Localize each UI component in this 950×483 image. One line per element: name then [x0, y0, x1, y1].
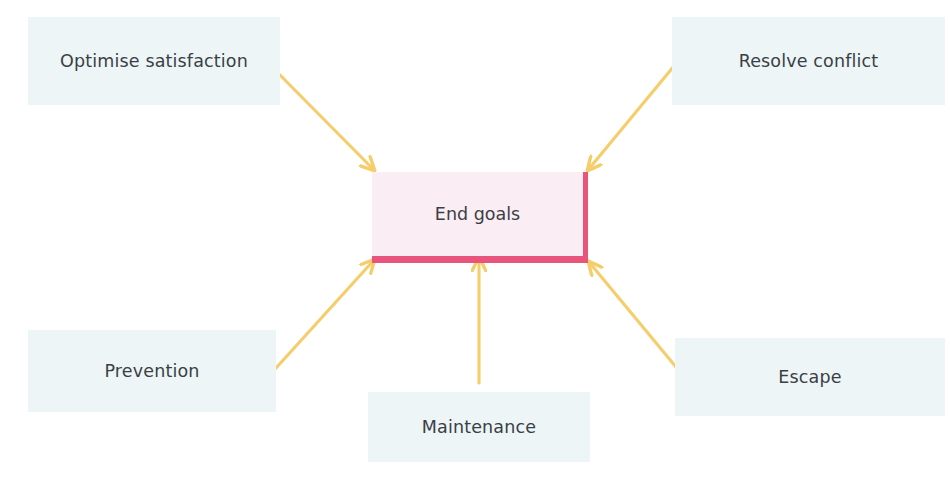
diagram-canvas: Optimise satisfaction Resolve conflict P…: [0, 0, 950, 483]
center-node-label: End goals: [435, 204, 520, 224]
node-label: Maintenance: [418, 417, 540, 437]
node-label: Prevention: [100, 361, 203, 381]
arrow-optimise-satisfaction: [277, 72, 374, 170]
center-node-end-goals[interactable]: End goals: [372, 172, 588, 263]
node-prevention[interactable]: Prevention: [28, 330, 276, 412]
arrow-prevention: [276, 260, 374, 368]
node-resolve-conflict[interactable]: Resolve conflict: [672, 17, 945, 105]
arrow-escape: [589, 262, 676, 367]
node-optimise-satisfaction[interactable]: Optimise satisfaction: [28, 17, 280, 105]
node-label: Resolve conflict: [735, 51, 883, 71]
node-label: Escape: [774, 367, 845, 387]
node-maintenance[interactable]: Maintenance: [368, 392, 590, 462]
node-label: Optimise satisfaction: [56, 51, 252, 71]
node-escape[interactable]: Escape: [675, 338, 945, 416]
arrow-resolve-conflict: [588, 60, 679, 170]
